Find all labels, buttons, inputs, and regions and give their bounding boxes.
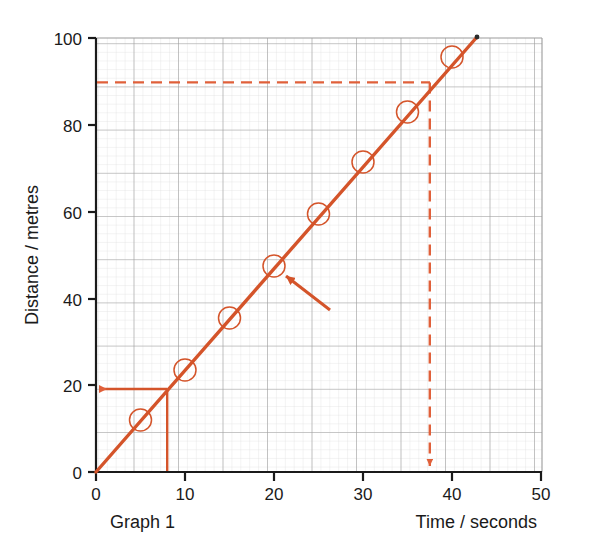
y-tick-label: 0 [73,464,82,483]
distance-time-chart: 100 80 60 40 20 0 0 10 20 30 40 50 Dista… [0,0,589,544]
x-axis-ticks [96,472,541,481]
graph-figure: 100 80 60 40 20 0 0 10 20 30 40 50 Dista… [0,0,589,544]
line-end-dot [475,35,480,40]
y-tick-label: 60 [63,204,82,223]
x-tick-label: 40 [443,485,462,504]
y-axis-title: Distance / metres [22,185,42,325]
plot-grid [96,38,542,472]
y-tick-label: 40 [63,291,82,310]
y-axis-ticks [88,38,96,472]
x-axis-title: Time / seconds [416,512,537,532]
y-tick-label: 20 [63,377,82,396]
x-tick-label: 30 [354,485,373,504]
y-tick-labels: 100 80 60 40 20 0 [54,30,82,483]
y-tick-label: 100 [54,30,82,49]
x-tick-label: 10 [176,485,195,504]
x-tick-labels: 0 10 20 30 40 50 [91,485,550,504]
figure-caption: Graph 1 [110,512,175,532]
x-tick-label: 50 [532,485,551,504]
y-tick-label: 80 [63,117,82,136]
x-tick-label: 20 [265,485,284,504]
x-tick-label: 0 [91,485,100,504]
